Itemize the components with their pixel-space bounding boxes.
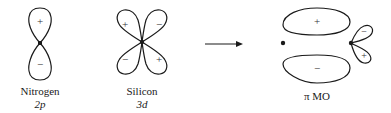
silicon-orbital-label: 3d xyxy=(112,99,172,110)
orbital-diagram: + − + − − + + − − + Nitrogen 2p Silicon … xyxy=(0,0,391,113)
pi-mo-orbital xyxy=(281,8,373,83)
reaction-arrow xyxy=(205,41,243,47)
nitrogen-sign-minus: − xyxy=(37,58,43,70)
silicon-lower-left-lobe xyxy=(117,42,142,74)
phase-signs: + − + − − + + − − + xyxy=(37,15,367,74)
nitrogen-label: Nitrogen xyxy=(10,86,70,97)
silicon-nucleus xyxy=(140,40,144,44)
silicon-lower-right-lobe xyxy=(142,42,167,74)
nitrogen-orbital-label: 2p xyxy=(10,99,70,110)
pi-sign-upper: + xyxy=(314,15,320,27)
silicon-sign-upper-left: + xyxy=(122,18,128,30)
silicon-upper-left-lobe xyxy=(117,10,142,42)
pi-left-nucleus xyxy=(281,41,285,45)
pi-sign-small-upper: − xyxy=(361,26,367,37)
silicon-sign-lower-right: + xyxy=(156,53,162,65)
pi-sign-lower: − xyxy=(314,62,320,74)
silicon-sign-upper-right: − xyxy=(156,18,162,30)
pi-mo-label: π MO xyxy=(287,91,347,102)
nitrogen-sign-plus: + xyxy=(37,15,43,27)
silicon-sign-lower-left: − xyxy=(122,53,128,65)
silicon-label: Silicon xyxy=(112,86,172,97)
nitrogen-nucleus xyxy=(38,41,42,45)
pi-sign-small-lower: + xyxy=(361,50,367,61)
silicon-upper-right-lobe xyxy=(142,10,167,42)
